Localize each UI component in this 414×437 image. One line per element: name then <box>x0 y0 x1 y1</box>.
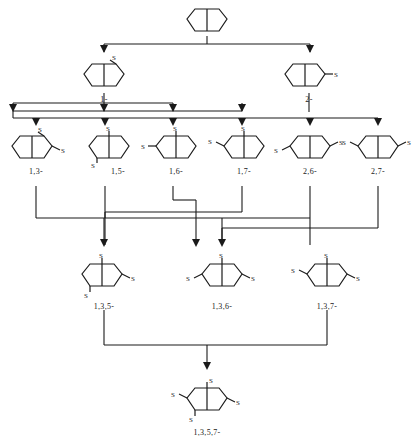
node-di-16[interactable]: S S 1,6- <box>142 130 210 176</box>
node-di-15[interactable]: S S 1,5- <box>77 130 141 176</box>
node-di-27-label: 2,7- <box>342 167 414 176</box>
substituent-glyph: S <box>342 139 346 147</box>
naphthalene-skeleton: S S <box>142 130 210 166</box>
substituent-glyph: S <box>189 416 193 424</box>
substituent-glyph: S <box>173 125 177 133</box>
node-di-13-label: 1,3- <box>0 167 72 176</box>
substituent-glyph: S <box>209 377 213 385</box>
node-di-26[interactable]: S S 2,6- <box>274 130 346 176</box>
substituent-glyph: S <box>84 292 88 300</box>
naphthalene-skeleton: S S <box>77 130 141 166</box>
node-tri-135-label: 1,3,5- <box>68 302 140 311</box>
substituent-glyph: S <box>356 275 360 283</box>
node-tetra-1357-label: 1,3,5,7- <box>167 428 247 437</box>
substituent-glyph: S <box>38 126 42 134</box>
node-tetra-1357[interactable]: S S S S 1,3,5,7- <box>167 378 247 437</box>
naphthalene-skeleton: S S <box>274 130 346 166</box>
naphthalene-skeleton: S S <box>210 130 278 166</box>
node-di-17[interactable]: S S 1,7- <box>210 130 278 176</box>
node-mono-2[interactable]: S 2- <box>272 58 346 104</box>
substituent-glyph: S <box>141 143 145 151</box>
substituent-glyph: S <box>324 252 328 260</box>
node-mono-1[interactable]: S 1- <box>69 58 139 104</box>
substituent-glyph: S <box>61 147 65 155</box>
naphthalene-skeleton: S S <box>0 130 72 166</box>
naphthalene-skeleton: S <box>272 58 346 94</box>
substituent-glyph: S <box>219 252 223 260</box>
substituent-glyph: S <box>106 125 110 133</box>
substituent-glyph: S <box>236 399 240 407</box>
substituent-glyph: S <box>91 162 95 170</box>
node-di-15-label: 1,5- <box>95 167 141 176</box>
substituent-glyph: S <box>251 275 255 283</box>
node-root[interactable] <box>178 4 236 39</box>
node-tri-136[interactable]: S S S 1,3,6- <box>184 254 260 311</box>
node-di-16-label: 1,6- <box>142 167 210 176</box>
naphthalene-skeleton: S S S <box>68 254 140 294</box>
substituent-glyph: S <box>112 54 116 62</box>
substituent-glyph: S <box>131 275 135 283</box>
node-di-26-label: 2,6- <box>274 167 346 176</box>
node-di-13[interactable]: S S 1,3- <box>0 130 72 176</box>
naphthalene-skeleton: S S S S <box>167 378 247 420</box>
naphthalene-skeleton: S S S <box>289 254 365 294</box>
node-tri-137-label: 1,3,7- <box>289 302 365 311</box>
substituent-glyph: S <box>407 139 411 147</box>
naphthalene-skeleton: S S S <box>184 254 260 294</box>
node-tri-136-label: 1,3,6- <box>184 302 260 311</box>
node-di-27[interactable]: S S 2,7- <box>342 130 414 176</box>
node-di-17-label: 1,7- <box>210 167 278 176</box>
substituent-glyph: S <box>291 267 295 275</box>
substituent-glyph: S <box>208 138 212 146</box>
naphthalene-skeleton: S S <box>342 130 414 166</box>
naphthalene-skeleton <box>178 4 236 38</box>
substituent-glyph: S <box>171 391 175 399</box>
node-mono-2-label: 2- <box>272 95 346 104</box>
node-tri-135[interactable]: S S S 1,3,5- <box>68 254 140 311</box>
node-tri-137[interactable]: S S S 1,3,7- <box>289 254 365 311</box>
substituent-glyph: S <box>334 71 338 79</box>
substituent-glyph: S <box>186 275 190 283</box>
node-mono-1-label: 1- <box>69 95 139 104</box>
substituent-glyph: S <box>241 125 245 133</box>
naphthalene-skeleton: S <box>69 58 139 94</box>
substituent-glyph: S <box>274 147 278 155</box>
substituent-glyph: S <box>99 252 103 260</box>
